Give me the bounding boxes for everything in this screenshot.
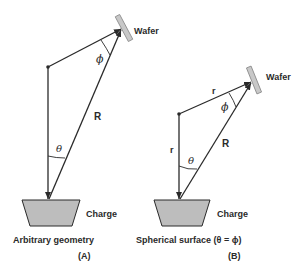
theta-label-a: θ <box>56 143 62 154</box>
panel-letter-b: (B) <box>228 251 241 261</box>
phi-label-b: ϕ <box>221 101 229 114</box>
wafer-label-a: Wafer <box>134 26 159 36</box>
theta-arc-b <box>179 166 197 169</box>
r-label-a: R <box>94 111 102 122</box>
charge-crucible-b <box>154 200 210 226</box>
wafer-b <box>246 66 261 94</box>
charge-label-b: Charge <box>217 209 248 219</box>
theta-arc-a <box>48 156 65 158</box>
r-label-b: R <box>222 138 230 149</box>
panel-b: Wafer r ϕ R r θ Charge Spherical surface… <box>136 66 291 261</box>
phi-label-a: ϕ <box>96 53 104 66</box>
line-r-a <box>49 30 121 199</box>
caption-b: Spherical surface (θ = ϕ) <box>136 235 241 245</box>
line-vertex-to-wafer-a <box>48 29 121 67</box>
r-small-left-label-b: r <box>170 145 174 155</box>
line-r-b <box>180 83 251 199</box>
phi-arc-b <box>229 93 236 107</box>
wafer-label-b: Wafer <box>266 72 291 82</box>
evaporation-geometry-diagram: Wafer ϕ R θ Charge Arbitrary geometry (A… <box>0 0 308 274</box>
theta-label-b: θ <box>188 155 194 166</box>
r-small-top-label-b: r <box>212 86 216 96</box>
panel-letter-a: (A) <box>78 251 91 261</box>
charge-crucible-a <box>22 200 80 226</box>
caption-a: Arbitrary geometry <box>13 235 94 245</box>
charge-label-a: Charge <box>86 209 117 219</box>
panel-a: Wafer ϕ R θ Charge Arbitrary geometry (A… <box>13 14 159 261</box>
